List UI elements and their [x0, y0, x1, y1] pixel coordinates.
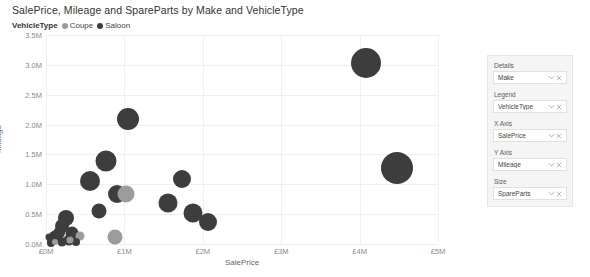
y-axis-tick-label: 2.0M	[25, 120, 42, 129]
y-axis-tick-label: 2.5M	[25, 90, 42, 99]
data-point-bubble[interactable]	[107, 230, 122, 245]
close-icon[interactable]	[555, 161, 563, 169]
field-chip-vehicletype[interactable]: VehicleType	[493, 100, 567, 113]
chevron-down-icon[interactable]	[547, 161, 555, 169]
gridline-vertical	[281, 35, 282, 244]
data-point-bubble[interactable]	[52, 239, 58, 245]
data-point-bubble[interactable]	[80, 171, 100, 191]
chevron-down-icon[interactable]	[547, 190, 555, 198]
y-axis-tick-label: 3.0M	[25, 60, 42, 69]
field-well-label: Legend	[488, 89, 572, 100]
field-well-label: X Axis	[488, 118, 572, 129]
field-well-label: Details	[488, 60, 572, 71]
field-well-y-axis[interactable]: Y AxisMileage	[488, 147, 572, 171]
field-well-legend[interactable]: LegendVehicleType	[488, 89, 572, 113]
data-point-layer[interactable]	[46, 35, 438, 244]
data-point-bubble[interactable]	[381, 152, 413, 184]
report-canvas: SalePrice, Mileage and SpareParts by Mak…	[0, 0, 590, 277]
data-point-bubble[interactable]	[159, 193, 178, 212]
data-point-bubble[interactable]	[66, 237, 73, 244]
chevron-down-icon[interactable]	[547, 103, 555, 111]
x-axis-title: SalePrice	[225, 258, 259, 267]
chevron-down-icon[interactable]	[547, 132, 555, 140]
x-axis-tick-label: £2M	[196, 247, 211, 256]
y-axis-tick-label: 1.5M	[25, 150, 42, 159]
field-well-label: Size	[488, 176, 572, 187]
gridline-horizontal	[46, 35, 438, 36]
field-wells-panel[interactable]: DetailsMakeLegendVehicleTypeX AxisSalePr…	[487, 55, 573, 207]
close-icon[interactable]	[555, 190, 563, 198]
data-point-bubble[interactable]	[57, 238, 66, 247]
field-well-label: Y Axis	[488, 147, 572, 158]
field-chip-label: SpareParts	[498, 190, 547, 197]
field-chip-saleprice[interactable]: SalePrice	[493, 129, 567, 142]
x-axis-tick-label: £4M	[352, 247, 367, 256]
data-point-bubble[interactable]	[46, 233, 53, 240]
gridline-horizontal	[46, 184, 438, 185]
x-axis-tick-label: £5M	[431, 247, 446, 256]
chevron-down-icon[interactable]	[547, 74, 555, 82]
gridline-horizontal	[46, 125, 438, 126]
field-chip-label: Mileage	[498, 161, 547, 168]
gridline-horizontal	[46, 244, 438, 245]
field-chip-mileage[interactable]: Mileage	[493, 158, 567, 171]
data-point-bubble[interactable]	[117, 108, 139, 130]
gridline-vertical	[438, 35, 439, 244]
y-axis-tick-label: 0.5M	[25, 210, 42, 219]
field-chip-make[interactable]: Make	[493, 71, 567, 84]
field-chip-spareparts[interactable]: SpareParts	[493, 187, 567, 200]
x-axis-tick-label: £1M	[117, 247, 132, 256]
close-icon[interactable]	[555, 74, 563, 82]
plot-area[interactable]: 0.0M0.5M1.0M1.5M2.0M2.5M3.0M3.5M £0M£1M£…	[0, 0, 472, 277]
field-chip-label: SalePrice	[498, 132, 547, 139]
data-point-bubble[interactable]	[199, 213, 217, 231]
data-point-bubble[interactable]	[117, 186, 134, 203]
field-chip-label: Make	[498, 74, 547, 81]
data-point-bubble[interactable]	[173, 170, 191, 188]
scatter-chart-visual[interactable]: SalePrice, Mileage and SpareParts by Mak…	[0, 0, 472, 277]
field-well-details[interactable]: DetailsMake	[488, 60, 572, 84]
data-point-bubble[interactable]	[351, 48, 381, 78]
close-icon[interactable]	[555, 132, 563, 140]
field-chip-label: VehicleType	[498, 103, 547, 110]
x-axis-tick-label: £0M	[39, 247, 54, 256]
gridline-horizontal	[46, 95, 438, 96]
field-well-size[interactable]: SizeSpareParts	[488, 176, 572, 200]
data-point-bubble[interactable]	[92, 203, 107, 218]
gridline-vertical	[46, 35, 47, 244]
x-axis-tick-label: £3M	[274, 247, 289, 256]
gridline-vertical	[124, 35, 125, 244]
field-well-x-axis[interactable]: X AxisSalePrice	[488, 118, 572, 142]
data-point-bubble[interactable]	[95, 150, 116, 171]
y-axis-tick-label: 3.5M	[25, 31, 42, 40]
close-icon[interactable]	[555, 103, 563, 111]
y-axis-title: Mileage	[0, 125, 3, 153]
y-axis-ticks: 0.0M0.5M1.0M1.5M2.0M2.5M3.0M3.5M	[0, 0, 42, 277]
y-axis-tick-label: 1.0M	[25, 180, 42, 189]
